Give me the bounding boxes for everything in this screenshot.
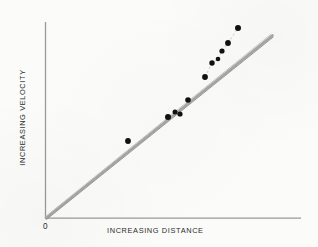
origin-tick-label: 0 bbox=[43, 222, 48, 231]
hubble-diagram-figure: INCREASING DISTANCE INCREASING VELOCITY … bbox=[0, 0, 318, 247]
data-point-markers bbox=[125, 25, 241, 144]
data-point bbox=[125, 138, 131, 144]
data-point bbox=[185, 97, 191, 103]
data-point bbox=[216, 57, 221, 62]
trend-line bbox=[46, 34, 273, 219]
y-axis-label: INCREASING VELOCITY bbox=[18, 63, 27, 173]
data-point bbox=[202, 74, 208, 80]
data-point bbox=[177, 111, 182, 116]
data-point bbox=[165, 114, 171, 120]
data-point bbox=[209, 60, 214, 65]
plot-area bbox=[0, 0, 318, 247]
data-point bbox=[235, 25, 241, 31]
data-point bbox=[225, 40, 231, 46]
data-point bbox=[173, 110, 178, 115]
x-axis-label: INCREASING DISTANCE bbox=[107, 226, 204, 235]
data-point bbox=[219, 48, 224, 53]
